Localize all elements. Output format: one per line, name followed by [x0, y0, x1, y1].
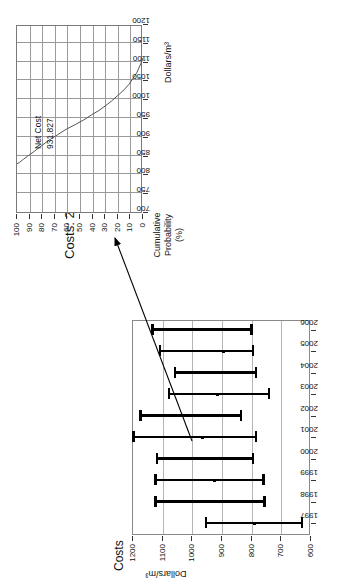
top-chart-plot-area: Net Cost 931.827 [16, 25, 142, 213]
y-tickmark [142, 214, 143, 219]
error-bar-mean-marker [216, 393, 219, 396]
error-bar-cap-low [268, 388, 271, 399]
y-tick-label: 90 [24, 223, 33, 232]
x-tickmark [311, 416, 316, 417]
y-tick-label: 700 [276, 544, 285, 557]
y-tick-label: 900 [217, 544, 226, 557]
gridline-h [281, 321, 282, 534]
error-bar-cap-low [250, 324, 253, 335]
top-chart-y-axis-label-line1: Cumulative [152, 207, 162, 263]
y-tick-label: 800 [246, 544, 255, 557]
x-tickmark [311, 437, 316, 438]
error-bar-line [175, 371, 257, 374]
top-chart-y-axis-label-line3: (%) [174, 207, 184, 263]
y-tickmark [280, 536, 281, 541]
y-tick-label: 60 [62, 223, 71, 232]
y-tick-label: 1100 [157, 544, 166, 561]
y-tickmark [54, 214, 55, 219]
x-tickmark [143, 80, 148, 81]
bottom-chart: Costs 600700800900100011001200 199719981… [110, 285, 343, 585]
x-tickmark [311, 480, 316, 481]
y-tick-label: 80 [37, 223, 46, 232]
error-bar-cap-high [139, 410, 142, 421]
error-bar-cap-low [255, 431, 258, 442]
top-chart-x-axis-label: Dollars/m³ [163, 42, 173, 83]
error-bar-cap-high [174, 367, 177, 378]
x-tick-label: 1998 [300, 490, 318, 499]
x-tickmark [311, 502, 316, 503]
x-tickmark [143, 118, 148, 119]
error-bar-cap-high [154, 496, 157, 507]
error-bar-cap-high [205, 517, 208, 528]
x-tickmark [311, 459, 316, 460]
error-bar-line [152, 328, 251, 331]
x-tick-label: 2000 [300, 447, 318, 456]
bottom-chart-plot-area [132, 320, 310, 535]
y-tick-label: 100 [12, 223, 21, 236]
bottom-chart-title: Costs [112, 540, 126, 571]
error-bar-cap-low [252, 345, 255, 356]
x-tick-label: 1997 [300, 511, 318, 520]
error-bar-mean-marker [210, 457, 213, 460]
x-tickmark [143, 99, 148, 100]
x-tickmark [143, 24, 148, 25]
x-tickmark [143, 212, 148, 213]
x-tick-label: 2003 [300, 382, 318, 391]
x-tickmark [311, 373, 316, 374]
y-tickmark [191, 536, 192, 541]
y-tickmark [162, 536, 163, 541]
error-bar-mean-marker [219, 328, 222, 331]
x-tickmark [143, 193, 148, 194]
error-bar-line [160, 350, 253, 353]
y-tick-label: 1000 [187, 544, 196, 562]
x-tickmark [311, 394, 316, 395]
x-tickmark [143, 174, 148, 175]
error-bar-mean-marker [203, 414, 206, 417]
error-bar-line [157, 457, 253, 460]
y-tickmark [132, 536, 133, 541]
x-tick-label: 1999 [300, 468, 318, 477]
y-tickmark [251, 536, 252, 541]
y-tick-label: 70 [49, 223, 58, 232]
x-tickmark [143, 62, 148, 63]
y-tickmark [79, 214, 80, 219]
error-bar-cap-low [262, 474, 265, 485]
y-tick-label: 1200 [128, 544, 137, 562]
x-tick-label: 2001 [300, 425, 318, 434]
y-tickmark [129, 214, 130, 219]
top-chart: Costs: 2000 Net [0, 0, 195, 265]
error-bar-mean-marker [213, 479, 216, 482]
error-bar-mean-marker [212, 500, 215, 503]
y-tick-label: 30 [100, 223, 109, 232]
error-bar-line [133, 436, 256, 439]
x-tickmark [143, 43, 148, 44]
error-bar-cap-low [255, 367, 258, 378]
error-bar-cap-low [252, 453, 255, 464]
y-tickmark [41, 214, 42, 219]
error-bar-cap-high [168, 388, 171, 399]
error-bar-cap-high [159, 345, 162, 356]
error-bar-cap-low [263, 496, 266, 507]
error-bar-line [155, 500, 265, 503]
x-tick-label: 2006 [300, 318, 318, 327]
error-bar-mean-marker [222, 350, 225, 353]
x-tickmark [143, 137, 148, 138]
error-bar-mean-marker [253, 522, 256, 525]
y-tickmark [117, 214, 118, 219]
x-tickmark [143, 156, 148, 157]
bottom-chart-y-axis-label: Dollars/m³ [126, 569, 206, 579]
figure-canvas: Costs: 2000 Net [0, 0, 343, 588]
y-tick-label: 10 [125, 223, 134, 232]
y-tickmark [92, 214, 93, 219]
y-tick-label: 600 [306, 544, 315, 557]
x-tickmark [311, 330, 316, 331]
error-bar-mean-marker [201, 436, 204, 439]
net-cost-annotation-label: Net Cost [33, 116, 44, 149]
y-tickmark [66, 214, 67, 219]
error-bar-cap-high [156, 453, 159, 464]
error-bar-cap-high [151, 324, 154, 335]
y-tickmark [16, 214, 17, 219]
top-chart-y-axis-label-line2: Probability [163, 207, 173, 263]
y-tickmark [221, 536, 222, 541]
y-tickmark [104, 214, 105, 219]
